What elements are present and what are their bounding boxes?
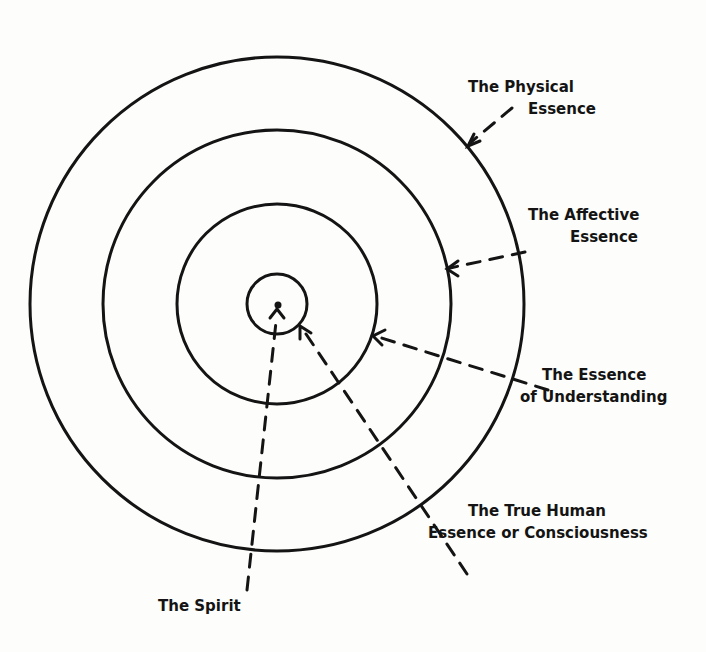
spirit-dot-icon bbox=[275, 302, 282, 309]
understanding-label-line2: of Understanding bbox=[520, 386, 667, 408]
spirit-label-line1: The Spirit bbox=[158, 595, 241, 617]
affective-leader-line bbox=[450, 252, 525, 268]
affective-label-line2: Essence bbox=[528, 226, 639, 248]
true-human-label-line1: The True Human bbox=[428, 500, 648, 522]
affective-essence-label: The Affective Essence bbox=[528, 204, 639, 248]
true-human-essence-label: The True Human Essence or Consciousness bbox=[428, 500, 648, 544]
spirit-arrow-icon bbox=[270, 309, 284, 318]
true-human-label-line2: Essence or Consciousness bbox=[428, 522, 648, 544]
spirit-label: The Spirit bbox=[158, 595, 241, 617]
concentric-essence-diagram bbox=[0, 0, 706, 652]
physical-label-line2: Essence bbox=[468, 98, 596, 120]
affective-label-line1: The Affective bbox=[528, 204, 639, 226]
understanding-label-line1: The Essence bbox=[520, 364, 667, 386]
physical-essence-label: The Physical Essence bbox=[468, 76, 596, 120]
understanding-essence-label: The Essence of Understanding bbox=[520, 364, 667, 408]
physical-label-line1: The Physical bbox=[468, 76, 596, 98]
